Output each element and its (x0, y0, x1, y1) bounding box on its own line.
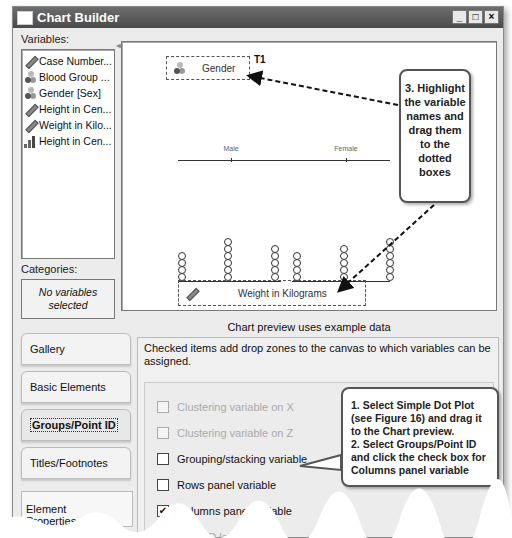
dot-column (224, 239, 232, 281)
nominal-icon (24, 71, 37, 84)
callout-step-1-2: 1. Select Simple Dot Plot (see Figure 16… (341, 387, 499, 487)
tab-basic-elements[interactable]: Basic Elements (21, 371, 131, 403)
panel-axis (178, 160, 390, 161)
tab-label: Groups/Point ID (30, 418, 118, 432)
tab-label: Basic Elements (30, 381, 106, 393)
dot-column (340, 246, 348, 281)
categories-label: Categories: (21, 263, 77, 275)
tab-label: Gallery (30, 343, 65, 355)
app-icon (17, 11, 33, 25)
title-bar[interactable]: Chart Builder _ □ × (13, 7, 503, 28)
callout-line: boxes (401, 165, 469, 179)
callout-line: 2. Select Groups/Point ID (351, 438, 491, 451)
callout-line: Columns panel variable (351, 464, 491, 477)
variable-label: Gender [Sex] (39, 87, 101, 99)
option-label: Columns panel variable (177, 505, 292, 517)
nominal-icon (173, 62, 186, 75)
callout-line: 3. Highlight (401, 81, 469, 95)
panel-label-female: Female (334, 145, 357, 152)
checkbox[interactable] (157, 479, 169, 491)
minimize-button[interactable]: _ (452, 10, 467, 24)
option-label: Clustering variable on Z (177, 427, 293, 439)
variable-item[interactable]: Blood Group ... (24, 69, 112, 85)
rows-panel-checkbox[interactable]: Rows panel variable (157, 479, 276, 491)
columns-panel-checkbox[interactable]: ✔Columns panel variable (157, 505, 292, 517)
panel-zone-label: Gender (202, 63, 235, 74)
option-label: Point ID label (177, 531, 242, 538)
nominal-icon (24, 87, 37, 100)
grouping-stacking-checkbox[interactable]: Grouping/stacking variable (157, 453, 307, 465)
tab-titles-footnotes[interactable]: Titles/Footnotes (21, 447, 131, 479)
panel-drop-zone[interactable]: Gender (166, 56, 250, 80)
categories-box: No variables selected (21, 279, 115, 319)
callout-line: names and (401, 109, 469, 123)
variable-item[interactable]: Weight in Kilo... (24, 117, 112, 133)
clustering-x-checkbox[interactable]: Clustering variable on X (157, 401, 294, 413)
panel-tick (346, 158, 347, 162)
categories-empty-text: No variables selected (33, 286, 103, 312)
callout-line: the variable (401, 95, 469, 109)
variables-list[interactable]: Case Number... Blood Group ... Gender [S… (21, 49, 115, 259)
x-axis-drop-zone[interactable]: Weight in Kilograms (178, 280, 366, 306)
tab-gallery[interactable]: Gallery (21, 333, 131, 365)
checkmark-icon[interactable]: ✔ (157, 505, 169, 517)
variable-item[interactable]: Gender [Sex] (24, 85, 112, 101)
dot-column (293, 253, 301, 281)
dot-column (178, 253, 186, 281)
element-properties-button[interactable]: Element Properties... (21, 491, 133, 527)
point-id-label-checkbox[interactable]: Point ID label (157, 531, 242, 538)
close-button[interactable]: × (484, 10, 499, 24)
checkbox[interactable] (157, 401, 169, 413)
tab-groups-point-id[interactable]: Groups/Point ID (21, 409, 131, 441)
scale-ruler-icon (185, 287, 198, 300)
dot-column (386, 239, 394, 281)
variable-item[interactable]: Case Number... (24, 53, 112, 69)
builder-tabs: Gallery Basic Elements Groups/Point ID T… (21, 333, 131, 485)
option-label: Clustering variable on X (177, 401, 294, 413)
callout-line: and click the check box for (351, 451, 491, 464)
scale-ruler-icon (24, 103, 37, 116)
variables-label: Variables: (21, 33, 69, 45)
variable-item[interactable]: Height in Cen... (24, 133, 112, 149)
checkbox[interactable] (157, 427, 169, 439)
scale-ruler-icon (24, 55, 37, 68)
variable-label: Case Number... (39, 55, 112, 67)
x-zone-label: Weight in Kilograms (238, 288, 327, 299)
callout-line: to the (401, 137, 469, 151)
option-label: Rows panel variable (177, 479, 276, 491)
ordinal-bars-icon (24, 135, 37, 148)
callout-line: (see Figure 16) and drag it (351, 412, 491, 425)
clustering-z-checkbox[interactable]: Clustering variable on Z (157, 427, 293, 439)
callout-line: dotted (401, 151, 469, 165)
chart-builder-window: Chart Builder _ □ × Variables: ◂▸ Case N… (12, 6, 504, 538)
dot-plot-preview: Male Female (178, 142, 390, 282)
tab-label: Titles/Footnotes (30, 457, 108, 469)
panel-zone-tag: T1 (254, 54, 266, 65)
callout-line: to the Chart preview. (351, 425, 491, 438)
variable-label: Blood Group ... (39, 71, 110, 83)
variable-label: Height in Cen... (39, 135, 111, 147)
panel-description: Checked items add drop zones to the canv… (144, 342, 494, 368)
dot-column (271, 246, 279, 281)
variable-item[interactable]: Height in Cen... (24, 101, 112, 117)
scale-ruler-icon (24, 119, 37, 132)
variable-label: Height in Cen... (39, 103, 111, 115)
checkbox[interactable] (157, 531, 169, 538)
callout-line: 1. Select Simple Dot Plot (351, 399, 491, 412)
maximize-button[interactable]: □ (468, 10, 483, 24)
checkbox[interactable] (157, 453, 169, 465)
option-label: Grouping/stacking variable (177, 453, 307, 465)
callout-line: drag them (401, 123, 469, 137)
panel-label-male: Male (223, 145, 238, 152)
variable-label: Weight in Kilo... (39, 119, 112, 131)
panel-tick (231, 158, 232, 162)
preview-note: Chart preview uses example data (121, 321, 497, 333)
window-title: Chart Builder (37, 10, 119, 25)
callout-step-3: 3. Highlight the variable names and drag… (399, 69, 471, 203)
